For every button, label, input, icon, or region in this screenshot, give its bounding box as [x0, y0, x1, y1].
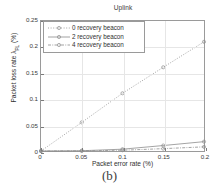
legend-item-label: 0 recovery beacon	[72, 24, 124, 33]
chart-title: Uplink	[40, 4, 206, 11]
legend-item[interactable]: 2 recovery beacon	[46, 33, 141, 42]
y-axis-tick-mark	[41, 127, 44, 128]
y-axis-title-main: Packet loss rate λ	[10, 51, 17, 103]
x-axis-tick-label: 0.15	[149, 153, 179, 160]
y-axis-tick-mark	[41, 100, 44, 101]
gridline-horizontal	[41, 74, 204, 75]
legend: 0 recovery beacon2 recovery beacon4 reco…	[43, 21, 145, 53]
figure-panel: Uplink 00.050.10.150.20.25 00.050.10.150…	[0, 0, 219, 192]
series-line	[41, 142, 204, 151]
figure-subcaption: (b)	[0, 168, 219, 184]
legend-item[interactable]: 0 recovery beacon	[46, 24, 141, 33]
x-axis-tick-label: 0.05	[66, 153, 96, 160]
x-axis-tick-label: 0.1	[108, 153, 138, 160]
x-axis-tick-mark	[82, 148, 83, 151]
y-axis-title-unit: (%)	[10, 33, 17, 45]
x-axis-tick-mark	[124, 148, 125, 151]
x-axis-tick-mark	[165, 148, 166, 151]
x-axis-title: Packet error rate (%)	[40, 160, 205, 167]
y-axis-title-subscript: PL	[15, 45, 20, 51]
x-axis-tick-label: 0.2	[190, 153, 219, 160]
x-axis-tick-mark	[206, 148, 207, 151]
legend-line-sample	[46, 41, 72, 49]
series-line	[41, 42, 204, 151]
legend-line-sample	[46, 24, 72, 32]
y-axis-tick-mark	[41, 74, 44, 75]
x-axis-tick-label: 0	[25, 153, 55, 160]
legend-line-sample	[46, 33, 72, 41]
legend-item-label: 4 recovery beacon	[72, 41, 124, 50]
y-axis-title: Packet loss rate λPL (%)	[10, 2, 19, 134]
gridline-vertical	[165, 21, 166, 151]
legend-item[interactable]: 4 recovery beacon	[46, 41, 141, 50]
gridline-horizontal	[41, 127, 204, 128]
legend-item-label: 2 recovery beacon	[72, 33, 124, 42]
data-point-marker	[202, 40, 205, 43]
x-axis-tick-mark	[41, 148, 42, 151]
gridline-horizontal	[41, 100, 204, 101]
